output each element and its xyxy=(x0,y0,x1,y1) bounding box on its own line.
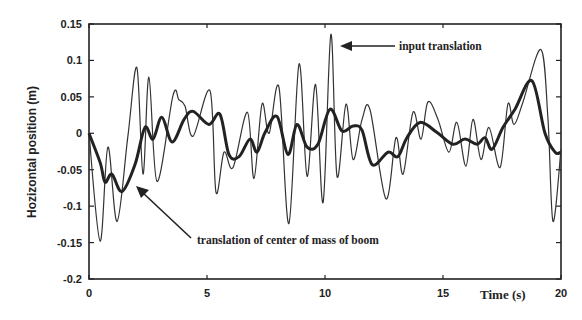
boom-annotation: translation of center of mass of boom xyxy=(136,186,379,246)
x-axis-title: Time (s) xyxy=(480,287,526,302)
y-tick-label: 0.05 xyxy=(61,91,82,103)
arrow-head-icon xyxy=(340,41,352,51)
y-tick-label: 0.1 xyxy=(67,54,82,66)
input-translation-label: input translation xyxy=(399,40,482,53)
y-tick-label: -0.15 xyxy=(57,237,82,249)
x-tick-label: 20 xyxy=(555,287,567,299)
y-tick-label: 0.15 xyxy=(61,18,82,30)
x-tick-label: 15 xyxy=(437,287,449,299)
x-tick-label: 5 xyxy=(204,287,210,299)
x-tick-label: 10 xyxy=(319,287,331,299)
input-translation-line xyxy=(89,34,561,241)
boom-label: translation of center of mass of boom xyxy=(197,234,379,246)
y-axis-title: Hozizontal position (m) xyxy=(25,86,39,218)
y-tick-labels: 0.150.10.050-0.05-0.1-0.15-0.2 xyxy=(57,18,82,285)
y-tick-label: -0.2 xyxy=(63,273,82,285)
x-tick-label: 0 xyxy=(86,287,92,299)
y-tick-label: -0.05 xyxy=(57,164,82,176)
chart: Hozizontal position (m) 0.150.10.050-0.0… xyxy=(0,0,582,320)
y-tick-label: 0 xyxy=(76,127,82,139)
input-translation-annotation: input translation xyxy=(340,40,482,53)
arrow-line xyxy=(142,192,191,238)
y-tick-label: -0.1 xyxy=(63,200,82,212)
